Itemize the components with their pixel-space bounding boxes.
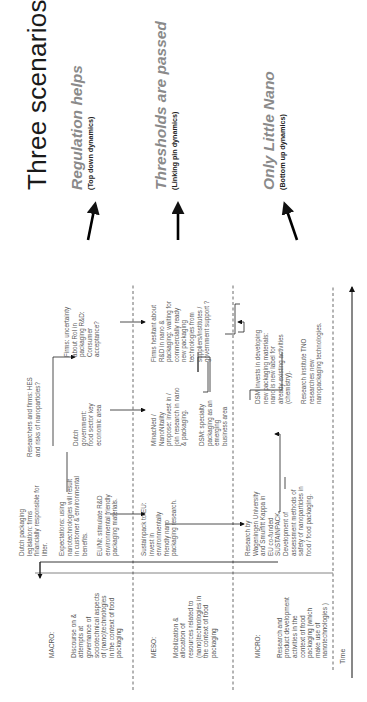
scenario-name: Thresholds are passed: [152, 21, 170, 190]
level-description: Mobilization & allocation of resources r…: [172, 596, 217, 658]
time-axis-label: Time: [339, 649, 346, 664]
scenario-dynamics: (Top down dynamics): [86, 65, 95, 190]
scenario-dynamics: (Bottom up dynamics): [278, 71, 287, 190]
event-tno: Research institute TNO researches new na…: [300, 322, 323, 404]
level-label: MESO:: [150, 578, 158, 658]
level-label: MACRO:: [48, 578, 56, 658]
event-dsm-specialty: DSM: specialty packaging as an emerging …: [198, 400, 228, 446]
event-researchers-hes: Researchers and firms: HES and risks of …: [26, 377, 41, 457]
scenario-regulation-helps: Regulation helps (Top down dynamics): [68, 65, 95, 190]
scenario-name: Only Little Nano: [260, 71, 278, 190]
level-micro: MICRO: Research and product development …: [246, 578, 329, 658]
event-dutch-government: Dutch government: food sector key econom…: [72, 403, 102, 446]
event-minacned: MinacNed / NanoNitality propose: invest …: [150, 388, 188, 446]
event-dutch-legislation: Dutch packaging legislation: firms finan…: [18, 485, 48, 556]
scenario-dynamics: (Linking pin dynamics): [170, 21, 179, 190]
event-firms-roi: Firms: uncertainty about RoI in packagin…: [63, 307, 101, 357]
scenario-only-little-nano: Only Little Nano (Bottom up dynamics): [260, 71, 287, 190]
arrow-regulation-helps: [88, 205, 95, 240]
event-expectations: Expectations: using nanotechnologies wil…: [58, 476, 88, 556]
event-firms-hesitant: Firms hesitant about R&D in nano & packa…: [150, 301, 211, 362]
event-wageningen: Research by Wageningen University and Sm…: [244, 486, 312, 556]
scenario-diagram: Three scenarios Regulation helps (Top do…: [0, 0, 367, 702]
arrow-only-little-nano: [285, 205, 297, 240]
event-dsm-invests: DSM invests in developing new packaging …: [254, 330, 292, 404]
level-description: Discourse on & attempts at governance of…: [70, 593, 123, 658]
event-eu-nl: EU/NI: stimulate R&D environmental frien…: [96, 494, 119, 556]
scenario-name: Regulation helps: [68, 65, 86, 190]
event-sustainpack: Sustainpack to EU: invest in environment…: [140, 499, 178, 556]
diagram-title: Three scenarios: [22, 0, 53, 190]
level-label: MICRO:: [254, 578, 262, 658]
scenario-thresholds-passed: Thresholds are passed (Linking pin dynam…: [152, 21, 179, 190]
level-meso: MESO: Mobilization & allocation of resou…: [142, 578, 217, 658]
level-macro: MACRO: Discourse on & attempts at govern…: [40, 578, 123, 658]
level-description: Research and product development activit…: [276, 597, 329, 658]
